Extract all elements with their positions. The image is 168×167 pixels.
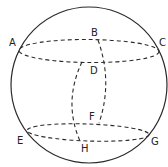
lower-parallel-circle — [27, 122, 150, 143]
point-label-g: G — [151, 136, 159, 147]
point-label-d: D — [90, 65, 98, 76]
upper-parallel-circle — [19, 39, 159, 63]
sphere-diagram: A B C D E F G H — [0, 0, 168, 167]
meridian-arc-d-h — [72, 62, 82, 141]
point-label-e: E — [17, 135, 23, 146]
point-label-c: C — [159, 37, 166, 48]
point-label-a: A — [9, 37, 16, 48]
sphere-outline — [11, 7, 167, 163]
point-label-b: B — [91, 27, 98, 38]
point-label-f: F — [89, 111, 95, 122]
meridian-arc-b-f — [98, 40, 106, 123]
point-label-h: H — [81, 143, 89, 154]
